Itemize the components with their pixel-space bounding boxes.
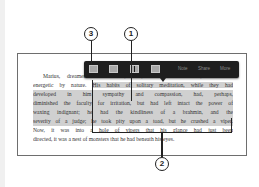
more-button[interactable]: More (220, 66, 230, 71)
callout-2-leader (161, 133, 163, 157)
text-line-2-prefix: energetic by nature. (33, 82, 93, 88)
share-button[interactable]: Share (198, 66, 210, 71)
highlight-toolbar: Note Share More (84, 61, 239, 78)
highlight-color-swatch-1[interactable] (89, 65, 98, 73)
callout-3: 3 (84, 27, 98, 41)
selection-end-bracket[interactable] (92, 124, 232, 133)
callout-1: 1 (124, 27, 138, 41)
selection-right-handle[interactable] (229, 118, 232, 133)
left-margin-strip (0, 0, 5, 187)
highlight-color-swatch-4[interactable] (151, 65, 160, 73)
callout-2: 2 (155, 157, 169, 171)
callout-3-leader (91, 41, 93, 65)
highlight-color-swatch-2[interactable] (109, 65, 118, 73)
text-line-8: directed, it was a nest of monsters that… (33, 135, 233, 144)
note-button[interactable]: Note (178, 66, 188, 71)
